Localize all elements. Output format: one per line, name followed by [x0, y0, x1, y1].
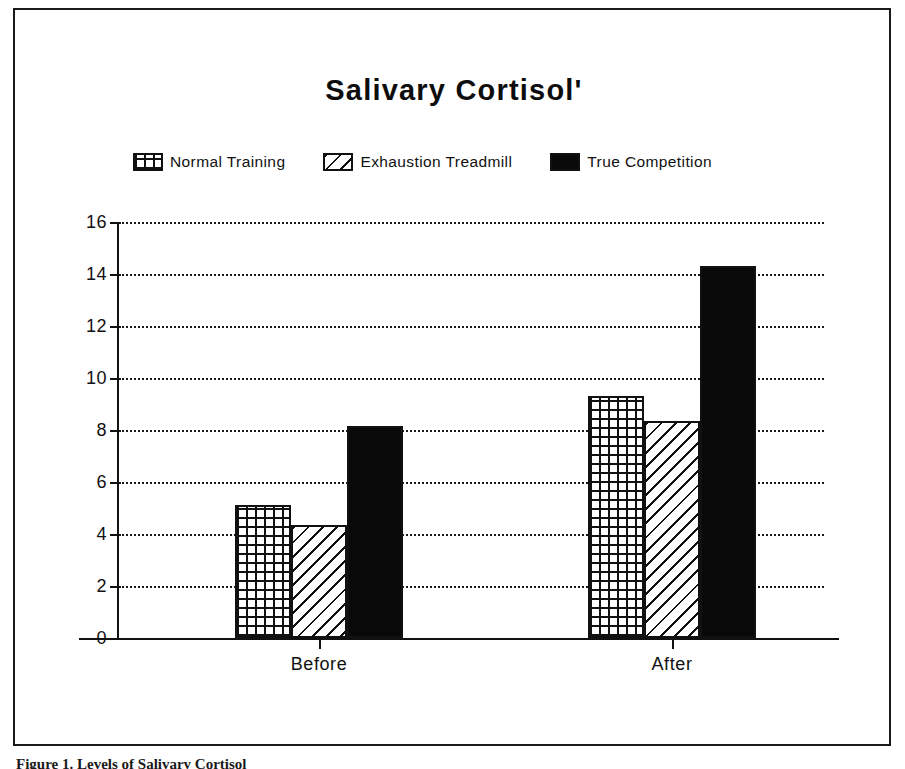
- y-axis-tick-label: 6: [96, 472, 107, 493]
- x-axis-tick: [672, 638, 674, 649]
- y-axis-tick: [110, 534, 119, 536]
- y-axis-tick: [110, 586, 119, 588]
- bar[interactable]: [235, 505, 291, 638]
- gridline: [119, 222, 824, 224]
- y-axis-tick: [110, 222, 119, 224]
- y-axis-tick: [110, 378, 119, 380]
- y-axis-tick-label: 8: [96, 420, 107, 441]
- y-axis-tick: [110, 638, 119, 640]
- y-axis-tick: [110, 482, 119, 484]
- bar[interactable]: [291, 525, 347, 638]
- bar[interactable]: [700, 266, 756, 638]
- y-axis-tick: [110, 274, 119, 276]
- plot-area: 1614121086420 BeforeAfter: [119, 222, 824, 638]
- y-axis-tick-label: 12: [86, 316, 107, 337]
- y-axis-tick-label: 0: [96, 628, 107, 649]
- bar[interactable]: [347, 426, 403, 638]
- y-axis-tick-label: 14: [86, 264, 107, 285]
- x-axis-label: Before: [291, 654, 348, 675]
- figure-frame: Salivary Cortisol' Normal Training Exhau…: [13, 8, 891, 746]
- y-axis-tick-label: 10: [86, 368, 107, 389]
- x-axis-tick: [319, 638, 321, 649]
- y-axis-tick-label: 16: [86, 212, 107, 233]
- bar[interactable]: [644, 421, 700, 638]
- y-axis-tick: [110, 430, 119, 432]
- figure-caption: Figure 1. Levels of Salivary Cortisol: [16, 757, 616, 769]
- y-axis-tick-label: 2: [96, 576, 107, 597]
- x-axis-line: [79, 638, 839, 640]
- bar[interactable]: [588, 396, 644, 638]
- y-axis-tick: [110, 326, 119, 328]
- y-axis-tick-label: 4: [96, 524, 107, 545]
- chart-plot: 1614121086420 BeforeAfter: [15, 10, 893, 748]
- x-axis-label: After: [651, 654, 692, 675]
